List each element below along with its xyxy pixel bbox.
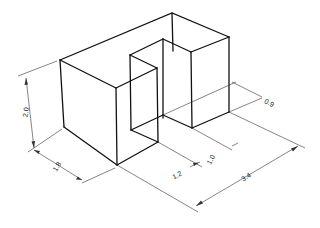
edge-right-bottom-front — [163, 115, 192, 128]
edge-back-top-vertical — [172, 13, 173, 51]
isometric-drawing: 2.0 1.8 0.9 1.0 1.2 3.4 — [0, 0, 320, 228]
edge-bottom-left — [64, 127, 117, 165]
edge-left-block-top-right — [116, 68, 157, 88]
label-notch-depth: 0.9 — [263, 97, 275, 108]
edge-left-vertical — [60, 60, 64, 127]
edge-notch-top — [130, 55, 157, 68]
edge-front-corner-vertical — [116, 88, 117, 165]
edge-notch-left-vertical — [130, 55, 131, 130]
dimension-labels: 2.0 1.8 0.9 1.0 1.2 3.4 — [21, 97, 275, 182]
label-notch-width: 1.0 — [205, 153, 216, 165]
label-depth: 1.8 — [51, 160, 62, 172]
edge-right-top-front — [163, 39, 191, 52]
extension-line-34-left — [117, 165, 198, 212]
dim-line-09 — [232, 82, 262, 97]
label-height: 2.0 — [21, 107, 29, 118]
arrow-height-bottom — [32, 141, 36, 148]
edge-top-left-front — [60, 60, 116, 88]
tick-10 — [232, 143, 238, 146]
extension-line-depth-right — [82, 168, 115, 183]
extension-line-09-a — [163, 82, 236, 115]
arrow-34-right — [291, 146, 298, 152]
edge-right-top-right — [191, 37, 229, 52]
edge-notch-floor-front — [131, 130, 158, 142]
extension-line-34-right — [229, 112, 305, 148]
arrow-12 — [193, 163, 199, 167]
extension-line-09-b — [229, 98, 262, 112]
label-front-width: 1.2 — [171, 170, 183, 181]
extension-line-top — [18, 61, 57, 76]
edge-right-bottom-right — [192, 112, 229, 128]
extension-line-10 — [192, 128, 232, 150]
arrow-height-top — [25, 78, 29, 85]
edge-right-front-vertical — [191, 52, 192, 128]
edge-notch-inner-vertical — [157, 68, 158, 142]
edge-notch-left-back — [130, 39, 163, 55]
edge-bottom-front — [117, 142, 158, 165]
edge-top-back-long — [60, 13, 229, 60]
label-overall-width: 3.4 — [240, 171, 252, 182]
arrow-34-left — [196, 201, 203, 207]
object-edges — [60, 13, 229, 165]
